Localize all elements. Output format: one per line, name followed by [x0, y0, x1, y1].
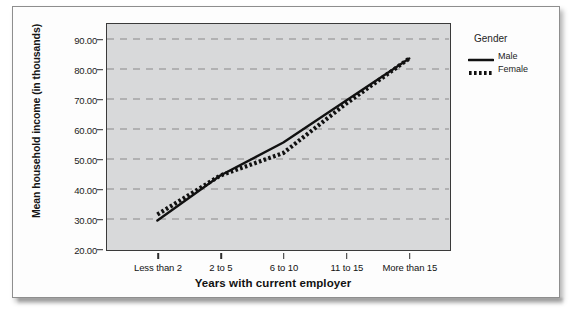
plot-svg	[107, 24, 449, 249]
line-chart: Mean household income (in thousands) 20.…	[13, 7, 559, 297]
legend-swatch-solid-icon	[468, 51, 494, 61]
y-tick-label: 80.00	[74, 64, 97, 75]
y-axis-title: Mean household income (in thousands)	[30, 14, 42, 228]
chart-figure-frame: Mean household income (in thousands) 20.…	[12, 6, 560, 298]
y-axis-tick-labels: 20.0030.0040.0050.0060.0070.0080.0090.00	[51, 23, 103, 251]
legend-label: Male	[498, 51, 518, 61]
legend-item-female[interactable]: Female	[468, 64, 554, 74]
legend: Gender MaleFemale	[468, 33, 554, 77]
series-line-female	[157, 59, 409, 215]
x-tick-label: Less than 2	[134, 262, 182, 273]
legend-swatch-dotted-icon	[468, 64, 494, 74]
y-tick-label: 20.00	[74, 244, 97, 255]
data-series-group	[157, 59, 409, 221]
y-tick-mark	[97, 159, 103, 161]
x-tick-label: 2 to 5	[209, 262, 232, 273]
y-tick-mark	[97, 69, 103, 71]
page-left-edge	[0, 0, 12, 324]
plot-area	[106, 23, 451, 251]
x-axis-title: Years with current employer	[73, 277, 473, 289]
y-tick-mark	[97, 99, 103, 101]
y-tick-label: 60.00	[74, 124, 97, 135]
x-tick-label: More than 15	[382, 262, 437, 273]
y-tick-label: 90.00	[74, 34, 97, 45]
y-tick-mark	[97, 219, 103, 221]
y-tick-mark	[97, 129, 103, 131]
y-tick-mark	[97, 39, 103, 41]
x-tick-label: 11 to 15	[330, 262, 363, 273]
x-tick-mark	[220, 253, 222, 259]
legend-label: Female	[498, 64, 528, 74]
x-tick-mark	[283, 253, 285, 259]
legend-item-male[interactable]: Male	[468, 51, 554, 61]
y-tick-mark	[97, 249, 103, 251]
scan-drop-shadow	[18, 298, 563, 305]
y-tick-label: 30.00	[74, 214, 97, 225]
x-axis-tick-labels: Less than 22 to 56 to 1011 to 15More tha…	[106, 253, 451, 277]
series-line-male	[157, 59, 409, 221]
y-tick-label: 50.00	[74, 154, 97, 165]
legend-title: Gender	[474, 33, 554, 44]
x-tick-mark	[346, 253, 348, 259]
x-tick-mark	[409, 253, 411, 259]
y-tick-mark	[97, 189, 103, 191]
y-tick-label: 70.00	[74, 94, 97, 105]
x-tick-mark	[157, 253, 159, 259]
x-tick-label: 6 to 10	[270, 262, 298, 273]
legend-entries: MaleFemale	[468, 51, 554, 74]
y-tick-label: 40.00	[74, 184, 97, 195]
